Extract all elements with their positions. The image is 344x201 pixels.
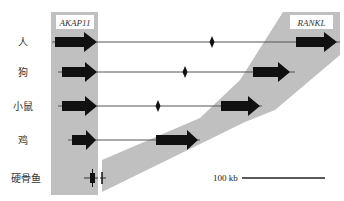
species-label-dog: 狗 xyxy=(18,66,28,78)
species-label-human: 人 xyxy=(18,37,28,48)
species-label-chicken: 鸡 xyxy=(18,134,28,146)
rankl-label: RANKL xyxy=(296,18,325,28)
marker-diamond xyxy=(183,66,188,78)
species-label-teleost: 硬骨鱼 xyxy=(11,172,41,184)
marker-diamond xyxy=(210,36,215,48)
scale-bar-label: 100 kb xyxy=(213,173,238,183)
marker-diamond xyxy=(156,100,161,112)
synteny-diagram: AKAP11 RANKL 人 狗 小鼠 鸡 硬骨鱼 xyxy=(0,0,344,201)
akap11-label: AKAP11 xyxy=(59,18,91,28)
species-label-mouse: 小鼠 xyxy=(13,100,33,112)
